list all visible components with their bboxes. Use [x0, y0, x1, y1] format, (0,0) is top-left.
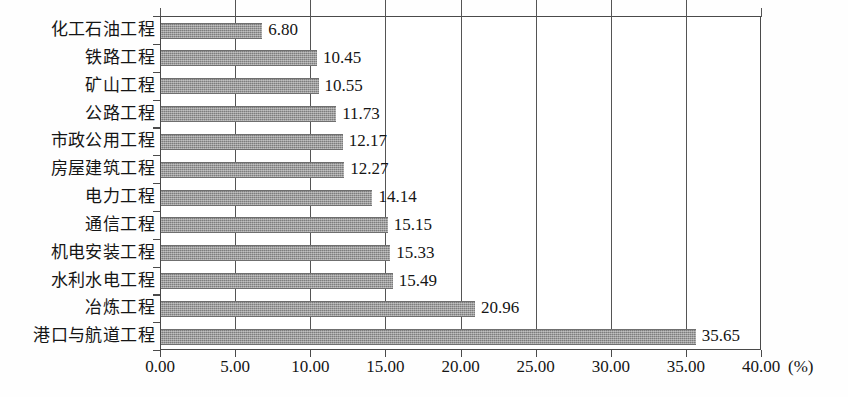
bar-chart: 0.005.0010.0015.0020.0025.0030.0035.0040…	[0, 0, 848, 397]
category-label: 通信工程	[0, 211, 155, 238]
x-axis-tick	[310, 350, 311, 357]
bar	[161, 134, 343, 150]
axis-unit-label: (%)	[788, 357, 813, 377]
bar-row: 通信工程15.15	[0, 211, 848, 238]
bar-row: 化工石油工程6.80	[0, 16, 848, 43]
category-label: 矿山工程	[0, 72, 155, 99]
bar-value-label: 15.33	[396, 239, 434, 266]
bar	[161, 106, 336, 122]
bar	[161, 245, 390, 261]
bar-row: 铁路工程10.45	[0, 44, 848, 71]
y-axis-tick	[153, 350, 161, 351]
category-label: 水利水电工程	[0, 267, 155, 294]
category-label: 房屋建筑工程	[0, 155, 155, 182]
bar	[161, 273, 393, 289]
bar-value-label: 6.80	[268, 16, 298, 43]
bar-row: 机电安装工程15.33	[0, 239, 848, 266]
bar-value-label: 10.45	[323, 44, 361, 71]
x-axis-tick	[235, 350, 236, 357]
bar-value-label: 10.55	[325, 72, 363, 99]
bar-row: 港口与航道工程35.65	[0, 322, 848, 349]
bar-row: 矿山工程10.55	[0, 72, 848, 99]
x-axis-tick	[686, 350, 687, 357]
x-axis-tick	[536, 350, 537, 357]
bar-value-label: 15.49	[399, 267, 437, 294]
bar	[161, 50, 317, 66]
category-label: 电力工程	[0, 183, 155, 210]
bar-row: 冶炼工程20.96	[0, 294, 848, 321]
x-axis-tick	[385, 350, 386, 357]
x-axis-tick	[761, 350, 762, 357]
bar-value-label: 12.17	[349, 127, 387, 154]
bar	[161, 217, 388, 233]
category-label: 港口与航道工程	[0, 322, 155, 349]
bar-row: 公路工程11.73	[0, 100, 848, 127]
category-label: 化工石油工程	[0, 16, 155, 43]
bar	[161, 329, 696, 345]
bar-row: 水利水电工程15.49	[0, 267, 848, 294]
bar-value-label: 35.65	[702, 322, 740, 349]
bar	[161, 23, 262, 39]
bar-value-label: 11.73	[342, 100, 380, 127]
category-label: 公路工程	[0, 100, 155, 127]
category-label: 冶炼工程	[0, 294, 155, 321]
category-label: 市政公用工程	[0, 127, 155, 154]
bar-value-label: 15.15	[394, 211, 432, 238]
category-label: 机电安装工程	[0, 239, 155, 266]
bar	[161, 78, 319, 94]
bar-row: 房屋建筑工程12.27	[0, 155, 848, 182]
bar-row: 电力工程14.14	[0, 183, 848, 210]
x-axis-tick	[461, 350, 462, 357]
bar	[161, 301, 475, 317]
category-label: 铁路工程	[0, 44, 155, 71]
bar-value-label: 14.14	[378, 183, 416, 210]
bar	[161, 162, 344, 178]
bar	[161, 190, 372, 206]
x-axis-tick	[611, 350, 612, 357]
bar-value-label: 12.27	[350, 155, 388, 182]
bar-row: 市政公用工程12.17	[0, 127, 848, 154]
bar-value-label: 20.96	[481, 294, 519, 321]
